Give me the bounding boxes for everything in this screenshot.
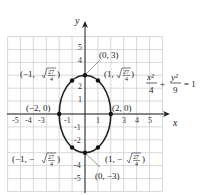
x-tick: 5 (148, 116, 152, 125)
x-tick: -4 (25, 116, 32, 125)
svg-text:27: 27 (133, 154, 139, 160)
svg-text:4: 4 (50, 76, 53, 82)
x-tick: -3 (38, 116, 45, 125)
y-tick: -1 (74, 123, 81, 132)
x-tick: 4 (135, 116, 139, 125)
label-0-neg3: (0, −3) (95, 171, 120, 181)
svg-text:4: 4 (50, 161, 53, 167)
y-tick-labels: 5 4 2 1 -1 -2 -4 -5 (74, 43, 82, 183)
svg-text:4: 4 (149, 85, 154, 95)
svg-text:): ) (57, 69, 60, 79)
y-tick: -2 (74, 136, 81, 145)
ellipse-equation: x² 4 + y² 9 = 1 (146, 72, 196, 95)
svg-text:= 1: = 1 (184, 79, 196, 89)
svg-text:27: 27 (48, 154, 54, 160)
svg-text:4: 4 (125, 76, 128, 82)
x-tick: 1 (96, 116, 100, 125)
point-neg1-pos (70, 78, 74, 82)
point-1-neg (96, 145, 100, 149)
x-tick: -5 (12, 116, 19, 125)
svg-text:+: + (160, 79, 165, 89)
y-tick: 1 (78, 95, 82, 104)
y-tick: -4 (74, 161, 81, 170)
svg-text:9: 9 (173, 85, 178, 95)
x-axis-label: x (172, 117, 178, 128)
x-tick-labels: -5 -4 -3 -1 1 3 4 5 (12, 116, 152, 125)
y-tick: 5 (78, 43, 82, 52)
y-tick: -5 (74, 174, 81, 183)
svg-text:): ) (57, 154, 60, 164)
svg-text:(−1,: (−1, (20, 69, 35, 79)
svg-text:27: 27 (123, 69, 129, 75)
label-0-3: (0, 3) (99, 50, 119, 60)
svg-text:(−1, −: (−1, − (12, 154, 34, 164)
point-neg2-0 (57, 112, 61, 116)
label-2-0: (2, 0) (112, 103, 132, 113)
svg-text:(1, −: (1, − (105, 154, 122, 164)
x-tick: -1 (64, 116, 71, 125)
point-1-pos (96, 78, 100, 82)
svg-text:4: 4 (135, 161, 138, 167)
label-neg2-0: (−2, 0) (26, 103, 51, 113)
svg-text:y²: y² (170, 72, 178, 82)
svg-text:27: 27 (48, 69, 54, 75)
x-tick: 3 (122, 116, 126, 125)
point-neg1-neg (70, 145, 74, 149)
y-tick: 2 (78, 82, 82, 91)
svg-text:): ) (142, 154, 145, 164)
label-neg1-neg: (−1, − 27 4 ) (12, 153, 60, 167)
svg-text:x²: x² (146, 72, 154, 82)
ellipse-graph: x y -5 -4 -3 -1 1 3 4 5 5 4 2 1 -1 -2 -4… (0, 0, 211, 195)
svg-text:): ) (131, 69, 134, 79)
y-axis-label: y (74, 15, 80, 26)
y-tick: 4 (78, 56, 82, 65)
svg-text:(1,: (1, (104, 69, 114, 79)
